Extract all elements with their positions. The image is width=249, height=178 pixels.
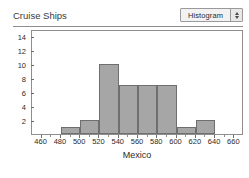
y-axis-tick-mark (31, 51, 34, 52)
x-axis-tick-labels: 460480500520540560580600620640660 (31, 137, 243, 149)
x-axis-tick-mark (60, 135, 61, 138)
x-axis-tick-label: 520 (92, 137, 105, 146)
y-axis-tick-mark (31, 93, 34, 94)
plot-type-selected-value: Histogram (181, 9, 230, 21)
x-axis-tick-label: 560 (131, 137, 144, 146)
x-axis-tick-label: 460 (34, 137, 47, 146)
plot-area (31, 30, 243, 135)
y-axis-tick-label: 10 (18, 61, 26, 70)
triangle-up-icon (235, 12, 239, 15)
x-axis-minor-tick-mark (185, 135, 186, 137)
x-axis-tick-label: 640 (208, 137, 221, 146)
triangle-down-icon (235, 16, 239, 19)
y-axis-tick-label: 12 (18, 47, 26, 56)
x-axis-minor-tick-mark (224, 135, 225, 137)
x-axis-minor-tick-mark (70, 135, 71, 137)
plot-type-select[interactable]: Histogram (180, 8, 243, 22)
histogram-bar (80, 120, 99, 134)
x-axis-minor-tick-mark (127, 135, 128, 137)
x-axis-tick-label: 500 (73, 137, 86, 146)
x-axis-tick-mark (79, 135, 80, 138)
histogram-bar (119, 85, 138, 134)
x-axis-minor-tick-mark (108, 135, 109, 137)
x-axis-tick-label: 620 (189, 137, 202, 146)
y-axis-tick-mark (31, 65, 34, 66)
x-axis-tick-mark (176, 135, 177, 138)
x-axis-tick-label: 580 (150, 137, 163, 146)
x-axis-tick-mark (156, 135, 157, 138)
x-axis-title: Mexico (31, 150, 243, 160)
histogram-bar (61, 127, 80, 134)
y-axis-tick-mark (31, 37, 34, 38)
histogram-bar (157, 85, 176, 134)
x-axis-tick-mark (233, 135, 234, 138)
histogram-window: Cruise Ships Histogram Frequency of Mexi… (0, 0, 249, 178)
y-axis-tick-labels: 2468101214 (0, 30, 31, 135)
x-axis-minor-tick-mark (204, 135, 205, 137)
x-axis-tick-mark (214, 135, 215, 138)
y-axis-tick-label: 4 (22, 103, 26, 112)
histogram-bar (196, 120, 215, 134)
x-axis-minor-tick-mark (89, 135, 90, 137)
page-title: Cruise Ships (13, 10, 67, 21)
plot-type-stepper[interactable] (230, 9, 242, 21)
header-divider (13, 26, 243, 27)
y-axis-tick-label: 6 (22, 89, 26, 98)
y-axis-tick-label: 14 (18, 33, 26, 42)
x-axis-tick-label: 540 (111, 137, 124, 146)
x-axis-tick-mark (41, 135, 42, 138)
histogram-bar (138, 85, 157, 134)
x-axis-tick-label: 600 (169, 137, 182, 146)
x-axis-tick-label: 480 (54, 137, 67, 146)
x-axis-minor-tick-mark (166, 135, 167, 137)
x-axis-tick-mark (195, 135, 196, 138)
x-axis-tick-mark (118, 135, 119, 138)
histogram-bar (99, 64, 118, 134)
histogram-bar (177, 127, 196, 134)
x-axis-tick-mark (137, 135, 138, 138)
x-axis-tick-label: 660 (227, 137, 240, 146)
y-axis-tick-label: 8 (22, 75, 26, 84)
x-axis-tick-mark (98, 135, 99, 138)
x-axis-minor-tick-mark (147, 135, 148, 137)
y-axis-tick-mark (31, 121, 34, 122)
histogram-bars (32, 31, 242, 134)
y-axis-tick-mark (31, 107, 34, 108)
y-axis-tick-label: 2 (22, 117, 26, 126)
x-axis-minor-tick-mark (50, 135, 51, 137)
chart-header: Cruise Ships Histogram (0, 8, 249, 28)
y-axis-tick-mark (31, 79, 34, 80)
